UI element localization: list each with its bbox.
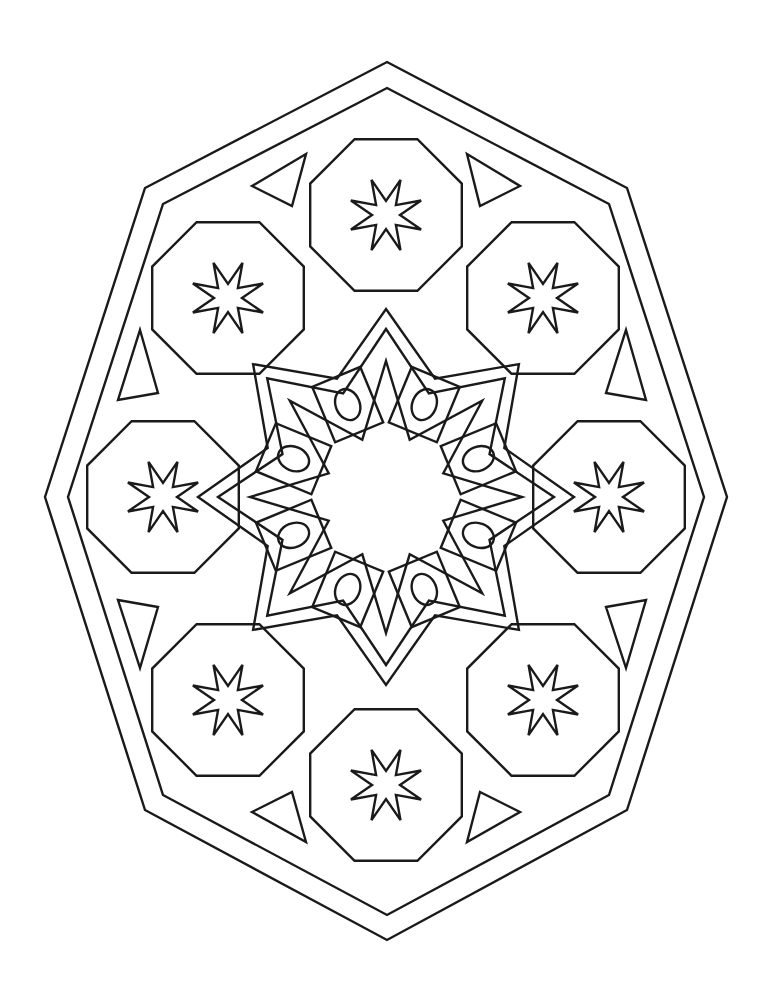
star-icon <box>351 750 421 820</box>
octagon-frame <box>310 139 462 291</box>
octagon-frame <box>467 624 619 776</box>
mandala-artwork <box>0 0 762 992</box>
triangle-accent <box>467 154 520 206</box>
star-icon <box>508 665 578 735</box>
star-icon <box>508 263 578 333</box>
triangle-accent <box>118 330 158 400</box>
inner-border <box>68 88 704 915</box>
mandala-coloring-page <box>0 0 762 992</box>
medallion-top-right <box>467 222 619 374</box>
triangle-group <box>118 154 646 842</box>
star-icon <box>574 462 644 532</box>
triangle-accent <box>252 792 306 842</box>
octagon-frame <box>467 222 619 374</box>
medallion-bottom <box>310 709 462 861</box>
medallion-top-left <box>152 222 304 374</box>
medallion-top <box>310 139 462 291</box>
center-band-inner <box>218 329 554 665</box>
octagon-frame <box>152 222 304 374</box>
star-icon <box>128 462 198 532</box>
octagon-frame <box>152 624 304 776</box>
medallion-group <box>87 139 685 861</box>
outer-border <box>45 62 727 940</box>
triangle-accent <box>606 330 646 400</box>
center-star-band <box>198 309 574 685</box>
medallion-bottom-left <box>152 624 304 776</box>
medallion-bottom-right <box>467 624 619 776</box>
star-icon <box>193 665 263 735</box>
triangle-accent <box>118 600 158 668</box>
triangle-accent <box>606 600 646 668</box>
triangle-accent <box>467 792 520 842</box>
star-icon <box>351 180 421 250</box>
center-star <box>250 361 522 633</box>
star-icon <box>193 263 263 333</box>
triangle-accent <box>252 154 306 206</box>
octagon-frame <box>310 709 462 861</box>
center-band-outer <box>198 309 574 685</box>
